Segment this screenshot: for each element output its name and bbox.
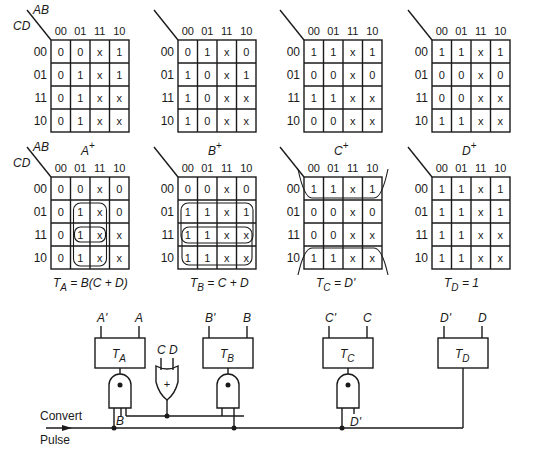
map-cell: 1: [185, 92, 191, 104]
map-cell: x: [224, 69, 230, 81]
map-cell: 1: [77, 115, 83, 127]
column-label: 11: [221, 162, 232, 174]
column-label: 01: [455, 25, 467, 37]
map-cell: x: [370, 229, 376, 241]
map-cell: 1: [185, 115, 191, 127]
row-label: 11: [416, 91, 429, 105]
map-cell: x: [370, 252, 376, 264]
map-cell: x: [498, 252, 504, 264]
column-label: 00: [182, 162, 194, 174]
map-cell: 1: [116, 69, 122, 81]
output-label-true: C: [363, 311, 372, 325]
row-label: 11: [162, 91, 175, 105]
map-cell: x: [498, 115, 504, 127]
map-cell: x: [224, 115, 230, 127]
output-label-complement: D': [440, 311, 452, 325]
map-cell: x: [478, 183, 484, 195]
map-cell: 1: [204, 206, 210, 218]
equation-td: TD = 1: [444, 276, 479, 293]
map-cell: x: [350, 46, 356, 58]
column-label: 01: [74, 162, 86, 174]
column-label: 11: [94, 162, 105, 174]
column-label: 00: [55, 162, 67, 174]
output-label-true: B: [243, 311, 251, 325]
map-cell: 1: [497, 46, 503, 58]
map-cell: x: [498, 92, 504, 104]
map-cell: x: [370, 92, 376, 104]
map-cell: 0: [369, 69, 375, 81]
map-cell: 1: [369, 183, 375, 195]
map-cell: 0: [204, 183, 210, 195]
map-cell: x: [97, 69, 103, 81]
output-label-complement: B': [205, 311, 216, 325]
map-title-A-plus: A+: [80, 140, 95, 158]
map-cell: 0: [77, 46, 83, 58]
equation-ta: TA = B(C + D): [53, 276, 128, 293]
map-cell: 1: [77, 92, 83, 104]
row-label: 11: [288, 228, 301, 242]
map-cell: 0: [185, 183, 191, 195]
column-label: 01: [455, 162, 467, 174]
column-label: 10: [240, 162, 252, 174]
map-cell: 1: [311, 183, 317, 195]
toggle-map-td: 000111100001111011x111x111xx11xx: [408, 147, 510, 269]
column-label: 11: [221, 25, 232, 37]
map-cell: x: [97, 115, 103, 127]
map-cell: x: [478, 206, 484, 218]
and-gate-tb: [217, 368, 239, 408]
map-cell: 1: [458, 252, 464, 264]
row-label: 11: [162, 228, 175, 242]
column-label: 00: [182, 25, 194, 37]
column-label: 01: [327, 25, 339, 37]
next-state-map-D-plus: 000111100001111011x100x000xx11xx: [408, 10, 510, 132]
map-cell: 1: [77, 69, 83, 81]
junction-dot: [340, 426, 345, 431]
counter-circuit: A'ATAB'BTBC'CTCD'DTDBC D+D'ConvertPulse: [40, 311, 488, 447]
or-input-labels: C D: [157, 343, 178, 357]
map-cell: 0: [243, 46, 249, 58]
map-cell: x: [224, 229, 230, 241]
flip-flop-tb: B'BTB: [203, 311, 253, 368]
map-cell: x: [224, 183, 230, 195]
map-cell: 1: [439, 206, 445, 218]
map-cell: x: [244, 92, 250, 104]
row-label: 00: [161, 182, 175, 196]
flip-flop-ta: A'ATA: [95, 311, 145, 368]
column-label: 10: [113, 162, 125, 174]
map-cell: 1: [439, 183, 445, 195]
row-label: 01: [161, 205, 175, 219]
column-label: 00: [308, 162, 320, 174]
map-cell: 0: [439, 92, 445, 104]
toggle-map-ta: ABCD000111100001111000x001x001xx01xx: [13, 140, 129, 269]
equation-tb: TB = C + D: [190, 276, 249, 293]
map-cell: x: [478, 252, 484, 264]
row-label: 11: [35, 91, 48, 105]
and-gate-icon: [109, 374, 131, 408]
map-cell: 0: [497, 69, 503, 81]
map-cell: x: [350, 69, 356, 81]
map-cell: 0: [204, 92, 210, 104]
map-cell: 1: [77, 206, 83, 218]
row-label: 01: [161, 68, 175, 82]
row-label: 01: [415, 68, 429, 82]
map-cell: x: [97, 229, 103, 241]
map-cell: 1: [311, 252, 317, 264]
map-cell: 0: [330, 69, 336, 81]
map-cell: x: [224, 92, 230, 104]
row-label: 01: [415, 205, 429, 219]
map-cell: x: [478, 46, 484, 58]
map-cell: 1: [185, 229, 191, 241]
column-label: 00: [55, 25, 67, 37]
map-cell: 0: [330, 229, 336, 241]
flip-flop-td: D'DTD: [438, 311, 488, 368]
map-cell: 1: [77, 252, 83, 264]
map-cell: 1: [204, 252, 210, 264]
map-cell: 0: [243, 183, 249, 195]
map-cell: 1: [185, 252, 191, 264]
output-label-true: A: [134, 311, 143, 325]
map-cell: 0: [116, 183, 122, 195]
junction-dot: [112, 426, 117, 431]
map-cell: 1: [330, 92, 336, 104]
toggle-map-tb: 000111100001111000x011x111xx11xx: [154, 147, 256, 269]
map-cell: x: [478, 115, 484, 127]
